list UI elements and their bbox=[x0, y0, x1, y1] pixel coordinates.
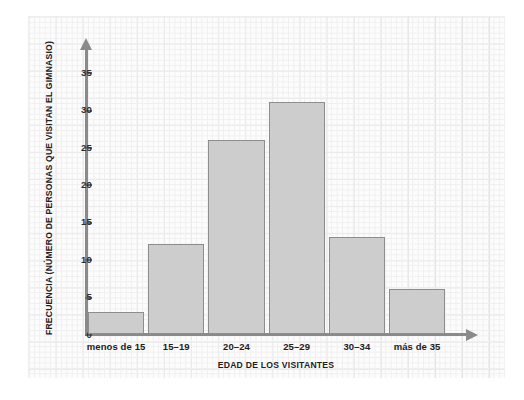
bar-5 bbox=[389, 289, 445, 334]
y-tick-label: 35 bbox=[66, 67, 92, 78]
y-tick-label-wrap: 30 bbox=[52, 104, 92, 116]
plot-area: 0 5 10 15 20 25 30 35 bbox=[0, 0, 524, 400]
x-tick-label-2: 20–24 bbox=[202, 341, 270, 352]
x-tick-label-0: menos de 15 bbox=[82, 341, 150, 352]
y-tick-label: 30 bbox=[66, 104, 92, 115]
y-tick-label: 5 bbox=[66, 291, 92, 302]
bar-1 bbox=[148, 244, 204, 334]
x-axis-arrow-icon bbox=[466, 329, 478, 341]
y-tick-label-wrap: 5 bbox=[52, 291, 92, 303]
y-tick-label: 25 bbox=[66, 142, 92, 153]
y-tick-label-wrap: 10 bbox=[52, 254, 92, 266]
x-tick-label-3: 25–29 bbox=[263, 341, 331, 352]
x-tick-label-5: más de 35 bbox=[383, 341, 451, 352]
y-tick-label: 10 bbox=[66, 254, 92, 265]
x-tick-label-1: 15–19 bbox=[142, 341, 210, 352]
bar-0 bbox=[88, 312, 144, 334]
y-tick-label-wrap: 35 bbox=[52, 67, 92, 79]
y-axis-title: FRECUENCIA (NÚMERO DE PERSONAS QUE VISIT… bbox=[44, 45, 54, 335]
y-tick-label: 15 bbox=[66, 216, 92, 227]
y-tick-label-wrap: 25 bbox=[52, 142, 92, 154]
y-tick-label-wrap: 15 bbox=[52, 216, 92, 228]
y-tick-label: 20 bbox=[66, 179, 92, 190]
y-tick-label-wrap: 20 bbox=[52, 179, 92, 191]
x-axis-title: EDAD DE LOS VISITANTES bbox=[85, 360, 467, 370]
bar-3 bbox=[269, 102, 325, 334]
y-axis-arrow-icon bbox=[80, 38, 92, 50]
histogram-figure: 0 5 10 15 20 25 30 35 bbox=[0, 0, 524, 400]
bar-2 bbox=[208, 140, 264, 334]
x-tick-label-4: 30–34 bbox=[323, 341, 391, 352]
y-tick-label-wrap: 0 bbox=[52, 329, 92, 341]
bar-4 bbox=[329, 237, 385, 334]
